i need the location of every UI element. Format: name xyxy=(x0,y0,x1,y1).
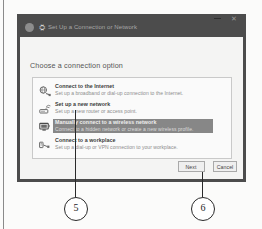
title-bar: ⛭ Set Up a Connection or Network xyxy=(20,17,243,37)
dialog-body: Choose a connection option Connect to th… xyxy=(20,37,243,179)
network-icon: ⛭ xyxy=(37,23,46,32)
globe-plug-icon xyxy=(39,85,51,97)
option-description: Set up a new router or access point. xyxy=(55,108,227,115)
set-up-connection-dialog: ⛭ Set Up a Connection or Network ✕ Choos… xyxy=(17,14,246,182)
wireless-monitor-icon xyxy=(39,121,51,133)
back-circle-icon[interactable] xyxy=(25,23,34,32)
page-edge-line xyxy=(3,0,4,229)
option-text: Set up a new network Set up a new router… xyxy=(55,101,227,115)
dialog-button-bar: Next Cancel xyxy=(174,161,237,173)
option-description: Set up a broadband or dial-up connection… xyxy=(55,90,227,97)
window-title: Set Up a Connection or Network xyxy=(48,23,137,32)
option-description: Connect to a hidden network or create a … xyxy=(55,126,213,133)
workplace-plug-icon xyxy=(39,139,51,151)
router-icon xyxy=(39,103,51,115)
option-title: Set up a new network xyxy=(55,101,227,108)
option-title: Connect to a workplace xyxy=(55,137,227,144)
option-connect-to-the-internet[interactable]: Connect to the Internet Set up a broadba… xyxy=(33,83,231,100)
option-text: Connect to the Internet Set up a broadba… xyxy=(55,83,227,97)
callout-6: 6 xyxy=(191,197,215,221)
callout-5: 5 xyxy=(64,197,88,221)
close-icon[interactable]: ✕ xyxy=(230,15,238,23)
minimize-icon[interactable] xyxy=(214,18,221,19)
next-button[interactable]: Next xyxy=(178,161,205,172)
option-title: Manually connect to a wireless network xyxy=(55,119,213,126)
option-text: Connect to a workplace Set up a dial-up … xyxy=(55,137,227,151)
callout-leader-line-6 xyxy=(202,172,203,197)
option-set-up-a-new-network[interactable]: Set up a new network Set up a new router… xyxy=(33,101,231,118)
option-text: Manually connect to a wireless network C… xyxy=(53,119,213,133)
callout-leader-line-5 xyxy=(75,110,76,197)
option-description: Set up a dial-up or VPN connection to yo… xyxy=(55,144,227,151)
option-manually-connect-to-a-wireless-network[interactable]: Manually connect to a wireless network C… xyxy=(33,119,231,136)
option-connect-to-a-workplace[interactable]: Connect to a workplace Set up a dial-up … xyxy=(33,137,231,154)
page-title: Choose a connection option xyxy=(30,61,123,70)
connection-options-list: Connect to the Internet Set up a broadba… xyxy=(32,77,232,159)
option-title: Connect to the Internet xyxy=(55,83,227,90)
cancel-button[interactable]: Cancel xyxy=(213,161,237,172)
